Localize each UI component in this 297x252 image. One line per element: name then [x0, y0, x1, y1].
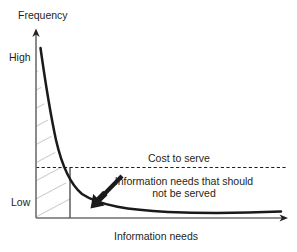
cost-to-serve-label: Cost to serve	[148, 152, 210, 164]
frequency-vs-information-needs-chart: Frequency High Low Information needs Cos…	[0, 0, 297, 252]
not-served-annotation: Information needs that should not be ser…	[113, 175, 255, 200]
y-axis-title: Frequency	[18, 9, 68, 21]
served-region-hatch	[36, 61, 70, 218]
y-tick-low: Low	[11, 196, 30, 208]
not-served-line-2: not be served	[113, 187, 255, 199]
chart-canvas	[0, 0, 297, 252]
y-tick-high: High	[9, 51, 31, 63]
not-served-line-1: Information needs that should	[113, 175, 255, 187]
x-axis-title: Information needs	[114, 230, 198, 242]
